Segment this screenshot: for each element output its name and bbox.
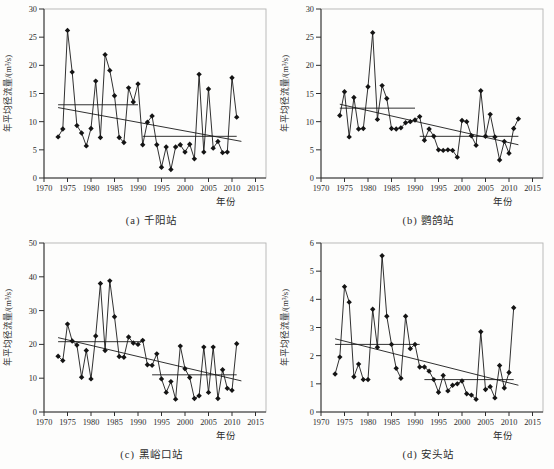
svg-text:2015: 2015 bbox=[247, 418, 264, 427]
svg-text:25: 25 bbox=[29, 33, 37, 42]
y-axis-label: 年平均径流量/(m³/s) bbox=[279, 289, 290, 366]
y-ticks: 01020304050 bbox=[29, 239, 44, 417]
svg-text:2000: 2000 bbox=[177, 184, 194, 193]
svg-text:2005: 2005 bbox=[200, 418, 217, 427]
svg-text:1970: 1970 bbox=[313, 184, 330, 193]
svg-text:1980: 1980 bbox=[360, 418, 377, 427]
chart-yingge: 1970197519801985199019952000200520102015… bbox=[277, 0, 554, 234]
svg-text:1970: 1970 bbox=[313, 418, 330, 427]
chart-heiyukou-caption: (c) 黑峪口站 bbox=[0, 446, 277, 466]
data-point-markers bbox=[337, 30, 521, 163]
svg-text:30: 30 bbox=[29, 5, 37, 14]
svg-text:2015: 2015 bbox=[524, 184, 541, 193]
svg-text:1985: 1985 bbox=[383, 418, 400, 427]
svg-text:10: 10 bbox=[29, 374, 37, 383]
trend-line bbox=[340, 104, 519, 145]
svg-text:1995: 1995 bbox=[153, 184, 170, 193]
svg-text:1975: 1975 bbox=[59, 418, 76, 427]
svg-text:1970: 1970 bbox=[36, 418, 53, 427]
x-ticks: 1970197519801985199019952000200520102015 bbox=[36, 178, 264, 193]
x-ticks: 1970197519801985199019952000200520102015 bbox=[36, 412, 264, 427]
svg-text:1980: 1980 bbox=[360, 184, 377, 193]
svg-text:1: 1 bbox=[310, 380, 314, 389]
svg-text:0: 0 bbox=[310, 408, 314, 417]
runoff-figure-grid: 1970197519801985199019952000200520102015… bbox=[0, 0, 554, 468]
data-series-line bbox=[340, 33, 519, 160]
data-point-markers bbox=[55, 278, 239, 402]
figure-page: { "colors": { "line": "#1a1a1a", "marker… bbox=[0, 0, 554, 469]
svg-text:2005: 2005 bbox=[477, 418, 494, 427]
svg-text:1975: 1975 bbox=[336, 418, 353, 427]
svg-text:1975: 1975 bbox=[336, 184, 353, 193]
y-axis-label: 年平均径流量/(m³/s) bbox=[279, 55, 290, 132]
y-ticks: 051015202530 bbox=[29, 5, 44, 183]
svg-text:15: 15 bbox=[29, 90, 37, 99]
svg-text:1970: 1970 bbox=[36, 184, 53, 193]
svg-text:30: 30 bbox=[306, 5, 314, 14]
svg-text:1985: 1985 bbox=[383, 184, 400, 193]
svg-text:1990: 1990 bbox=[130, 418, 147, 427]
svg-text:1990: 1990 bbox=[407, 418, 424, 427]
svg-text:1995: 1995 bbox=[153, 418, 170, 427]
svg-text:1990: 1990 bbox=[407, 184, 424, 193]
svg-text:50: 50 bbox=[29, 239, 37, 248]
svg-text:40: 40 bbox=[29, 273, 37, 282]
svg-text:1995: 1995 bbox=[430, 184, 447, 193]
chart-heiyukou-plot: 1970197519801985199019952000200520102015… bbox=[0, 234, 277, 446]
svg-text:2000: 2000 bbox=[177, 418, 194, 427]
svg-text:4: 4 bbox=[310, 295, 315, 304]
svg-text:15: 15 bbox=[306, 90, 314, 99]
x-axis-label: 年份 bbox=[493, 430, 513, 441]
svg-text:20: 20 bbox=[306, 61, 314, 70]
x-ticks: 1970197519801985199019952000200520102015 bbox=[313, 178, 541, 193]
svg-text:2010: 2010 bbox=[224, 418, 241, 427]
svg-text:6: 6 bbox=[310, 239, 314, 248]
svg-text:1990: 1990 bbox=[130, 184, 147, 193]
y-ticks: 0123456 bbox=[310, 239, 321, 417]
svg-text:5: 5 bbox=[310, 146, 314, 155]
chart-qianyang-caption: (a) 千阳站 bbox=[0, 212, 277, 232]
data-series-line bbox=[58, 30, 237, 169]
y-axis-label: 年平均径流量/(m³/s) bbox=[2, 55, 13, 132]
svg-text:1995: 1995 bbox=[430, 418, 447, 427]
x-axis-label: 年份 bbox=[493, 196, 513, 207]
svg-text:2015: 2015 bbox=[524, 418, 541, 427]
data-series-line bbox=[335, 256, 514, 400]
chart-qianyang-plot: 1970197519801985199019952000200520102015… bbox=[0, 0, 277, 212]
svg-text:2000: 2000 bbox=[454, 184, 471, 193]
svg-text:2010: 2010 bbox=[224, 184, 241, 193]
axes bbox=[44, 9, 266, 178]
chart-yingge-plot: 1970197519801985199019952000200520102015… bbox=[277, 0, 554, 212]
chart-yingge-caption: (b) 鹦鸽站 bbox=[277, 212, 554, 232]
x-axis-label: 年份 bbox=[216, 196, 236, 207]
svg-text:2015: 2015 bbox=[247, 184, 264, 193]
svg-text:1980: 1980 bbox=[83, 184, 100, 193]
svg-text:5: 5 bbox=[310, 267, 314, 276]
svg-text:2005: 2005 bbox=[477, 184, 494, 193]
plot-frame bbox=[44, 9, 266, 178]
svg-text:2: 2 bbox=[310, 352, 314, 361]
x-axis-label: 年份 bbox=[216, 430, 236, 441]
data-point-markers bbox=[55, 28, 239, 173]
svg-text:0: 0 bbox=[33, 174, 37, 183]
svg-text:30: 30 bbox=[29, 307, 37, 316]
svg-text:1985: 1985 bbox=[106, 184, 123, 193]
svg-text:3: 3 bbox=[310, 324, 314, 333]
svg-text:0: 0 bbox=[33, 408, 37, 417]
svg-text:5: 5 bbox=[33, 146, 37, 155]
x-ticks: 1970197519801985199019952000200520102015 bbox=[313, 412, 541, 427]
y-axis-label: 年平均径流量/(m³/s) bbox=[2, 289, 13, 366]
svg-text:10: 10 bbox=[306, 118, 314, 127]
y-ticks: 051015202530 bbox=[306, 5, 321, 183]
svg-text:1975: 1975 bbox=[59, 184, 76, 193]
svg-text:20: 20 bbox=[29, 61, 37, 70]
svg-text:2005: 2005 bbox=[200, 184, 217, 193]
svg-text:1985: 1985 bbox=[106, 418, 123, 427]
svg-text:25: 25 bbox=[306, 33, 314, 42]
svg-text:20: 20 bbox=[29, 340, 37, 349]
svg-text:2000: 2000 bbox=[454, 418, 471, 427]
chart-qianyang: 1970197519801985199019952000200520102015… bbox=[0, 0, 277, 234]
plot-frame bbox=[321, 243, 543, 412]
chart-heiyukou: 1970197519801985199019952000200520102015… bbox=[0, 234, 277, 468]
svg-text:2010: 2010 bbox=[501, 184, 518, 193]
